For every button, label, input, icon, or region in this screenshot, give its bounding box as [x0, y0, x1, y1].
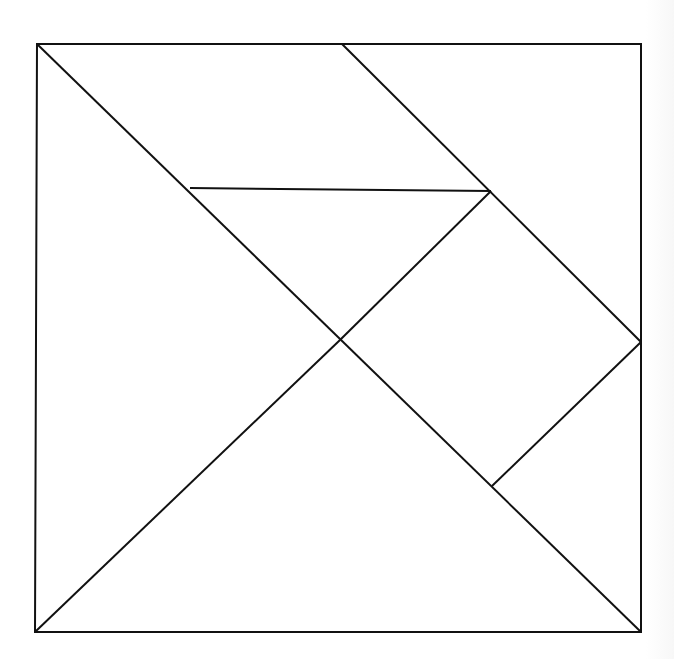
anti-diagonal-lower: [35, 340, 340, 632]
anti-diagonal-upper: [340, 191, 491, 340]
top-diagonal: [342, 44, 641, 342]
tangram-diagram: [0, 0, 674, 659]
background-strip: [646, 0, 674, 659]
horizontal-mid: [190, 188, 491, 191]
tangram-svg: [0, 0, 674, 659]
square-lower-edge: [492, 342, 641, 486]
